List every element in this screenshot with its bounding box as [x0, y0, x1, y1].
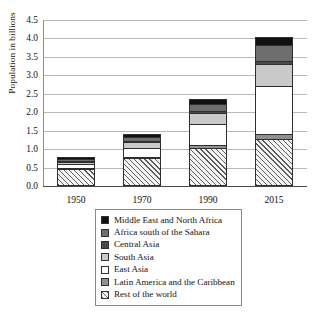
legend-swatch-solid-black-icon — [101, 216, 109, 224]
legend-item-label: Latin America and the Caribbean — [114, 278, 235, 287]
x-axis-tick-label: 1950 — [66, 194, 85, 205]
bar-segment — [123, 141, 161, 142]
bar-segment — [123, 158, 161, 186]
legend-item: Latin America and the Caribbean — [101, 276, 237, 288]
bar-segment — [189, 148, 227, 186]
legend-swatch-solid-midgray-icon — [101, 278, 109, 286]
bar-segment — [123, 148, 161, 157]
bar-segment — [255, 139, 293, 186]
bar-segment — [57, 164, 95, 168]
bar-segment — [57, 162, 95, 164]
x-axis-tick-label: 1970 — [132, 194, 151, 205]
legend-item: Rest of the world — [101, 288, 237, 300]
y-axis-tick-label: 3.5 — [26, 52, 38, 62]
bar-segment — [255, 86, 293, 133]
bar-segment — [57, 168, 95, 169]
bar-segment — [189, 111, 227, 113]
legend-item-label: Rest of the world — [114, 290, 177, 299]
bar-segment — [189, 99, 227, 104]
bar-stack — [123, 134, 161, 186]
bar-stack — [57, 157, 95, 186]
bar-segment — [123, 134, 161, 137]
bar-segment — [123, 157, 161, 158]
legend-item-label: East Asia — [114, 265, 148, 274]
bar-segment — [57, 169, 95, 186]
bar-stack — [189, 99, 227, 186]
bar-segment — [255, 37, 293, 46]
legend-item-label: Central Asia — [114, 240, 159, 249]
x-axis-line — [43, 186, 307, 187]
y-axis-tick-label: 2.0 — [26, 107, 38, 117]
legend-item: Middle East and North Africa — [101, 214, 237, 226]
legend-item-label: Middle East and North Africa — [114, 216, 222, 225]
y-axis-tick-label: 1.5 — [26, 126, 38, 136]
legend-item: Central Asia — [101, 239, 237, 251]
chart-legend: Middle East and North AfricaAfrica south… — [95, 209, 242, 306]
bar-segment — [255, 134, 293, 139]
x-axis-tick-label: 2015 — [264, 194, 283, 205]
bar-segment — [189, 113, 227, 124]
legend-swatch-solid-white-icon — [101, 266, 109, 274]
y-axis-title: Population in billions — [7, 0, 17, 117]
legend-swatch-solid-gray-icon — [101, 229, 109, 237]
legend-item-label: Africa south of the Sahara — [114, 228, 209, 237]
y-axis-tick-label: 4.0 — [26, 33, 38, 43]
y-axis-tick-label: 3.0 — [26, 70, 38, 80]
y-axis-tick-label: 2.5 — [26, 89, 38, 99]
legend-item-label: South Asia — [114, 253, 154, 262]
bar-stack — [255, 37, 293, 186]
legend-swatch-solid-lightgray-icon — [101, 253, 109, 261]
plot-wrapper: Population in billions 0.00.51.01.52.02.… — [0, 0, 312, 205]
y-axis-tick-label: 0.0 — [26, 181, 38, 191]
y-axis-line — [43, 20, 44, 186]
bar-segment — [123, 142, 161, 148]
legend-swatch-hatched-icon — [101, 291, 109, 299]
plot-area: 0.00.51.01.52.02.53.03.54.04.5 195019701… — [43, 20, 307, 186]
stacked-bar-chart-figure: Population in billions 0.00.51.01.52.02.… — [0, 0, 312, 325]
bar-segment — [189, 124, 227, 145]
legend-item: Africa south of the Sahara — [101, 226, 237, 238]
bar-segment — [57, 159, 95, 161]
y-axis-tick-label: 1.0 — [26, 144, 38, 154]
y-axis-tick-label: 4.5 — [26, 15, 38, 25]
y-axis-tick-label: 0.5 — [26, 163, 38, 173]
bar-segment — [189, 104, 227, 111]
bar-segment — [255, 64, 293, 87]
bar-segment — [123, 137, 161, 141]
gridline — [43, 20, 307, 21]
legend-item: East Asia — [101, 264, 237, 276]
bar-segment — [189, 145, 227, 148]
bar-segment — [255, 45, 293, 60]
legend-item: South Asia — [101, 251, 237, 263]
x-axis-tick-label: 1990 — [198, 194, 217, 205]
bar-segment — [255, 61, 293, 64]
bar-segment — [57, 157, 95, 159]
legend-swatch-solid-darkgray-icon — [101, 241, 109, 249]
